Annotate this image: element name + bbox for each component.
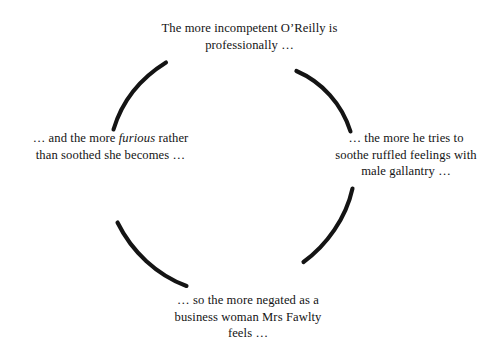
arc-left-to-top xyxy=(114,63,167,130)
node-left-line-1: … and the more furious rather xyxy=(8,130,213,147)
arc-bottom-to-left xyxy=(118,223,187,287)
node-top-line-1: The more incompetent O’Reilly is xyxy=(147,20,352,37)
node-bottom-line-2: business woman Mrs Fawlty xyxy=(148,309,348,326)
node-bottom: … so the more negated as a business woma… xyxy=(148,292,348,342)
arc-right-to-bottom xyxy=(304,189,353,263)
node-right-line-2: soothe ruffled feelings with xyxy=(322,147,490,164)
diagram-canvas: The more incompetent O’Reilly is profess… xyxy=(0,0,494,354)
node-top-line-2: professionally … xyxy=(147,37,352,54)
node-left: … and the more furious rather than sooth… xyxy=(8,130,213,163)
node-right-line-3: male gallantry … xyxy=(322,163,490,180)
node-right-line-1: … the more he tries to xyxy=(322,130,490,147)
node-bottom-line-3: feels … xyxy=(148,325,348,342)
arc-top-to-right xyxy=(296,71,350,132)
node-bottom-line-1: … so the more negated as a xyxy=(148,292,348,309)
node-left-line-2: than soothed she becomes … xyxy=(8,147,213,164)
node-top: The more incompetent O’Reilly is profess… xyxy=(147,20,352,53)
node-right: … the more he tries to soothe ruffled fe… xyxy=(322,130,490,180)
